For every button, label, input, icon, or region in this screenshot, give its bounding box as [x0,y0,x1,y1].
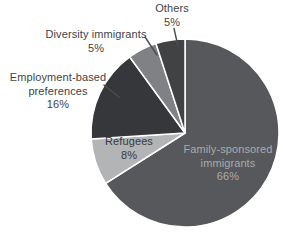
pie-slices [91,39,279,227]
label-family-sponsored: Family-sponsored immigrants 66% [183,143,272,184]
label-family-pct: 66% [183,170,272,184]
label-employment-based-preferences: Employment-based preferences 16% [10,71,106,112]
label-others-pct: 5% [155,16,189,30]
label-diversity-name: Diversity immigrants [45,28,146,42]
label-diversity-pct: 5% [45,42,146,56]
label-family-name-line2: immigrants [183,157,272,171]
label-diversity-immigrants: Diversity immigrants 5% [45,28,146,55]
label-refugees: Refugees 8% [105,135,153,162]
label-family-name-line1: Family-sponsored [183,143,272,157]
label-refugees-pct: 8% [105,149,153,163]
label-employment-name-line1: Employment-based [10,71,106,85]
pie-chart-figure: Others 5% Diversity immigrants 5% Employ… [0,0,285,232]
label-employment-name-line2: preferences [10,85,106,99]
label-refugees-name: Refugees [105,135,153,149]
label-employment-pct: 16% [10,98,106,112]
label-others-name: Others [155,2,189,16]
label-others: Others 5% [155,2,189,29]
